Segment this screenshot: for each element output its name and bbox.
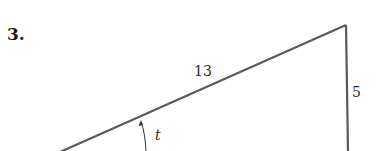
triangle-diagram: 13 5 t: [0, 0, 378, 151]
angle-arrow-icon: [139, 120, 144, 126]
angle-arc: [141, 122, 146, 151]
hypotenuse-line: [60, 25, 346, 151]
vertical-side-line: [346, 25, 348, 151]
hypotenuse-label: 13: [194, 63, 212, 79]
angle-label: t: [155, 127, 161, 143]
vertical-side-label: 5: [352, 84, 361, 100]
